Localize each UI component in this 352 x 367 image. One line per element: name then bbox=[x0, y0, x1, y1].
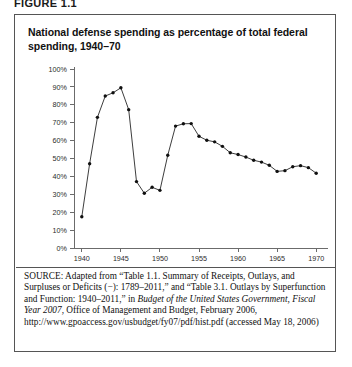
data-point bbox=[205, 139, 208, 142]
x-tick-label: 1960 bbox=[230, 254, 246, 263]
y-tick-label: 100% bbox=[49, 65, 68, 74]
series-line bbox=[82, 88, 316, 217]
data-point bbox=[197, 135, 200, 138]
data-point bbox=[291, 165, 294, 168]
x-axis: 1940194519501955196019651970 bbox=[74, 248, 328, 263]
data-point bbox=[88, 162, 91, 165]
y-tick-label: 10% bbox=[53, 226, 68, 235]
data-point bbox=[229, 151, 232, 154]
data-point bbox=[236, 153, 239, 156]
source-note: SOURCE: Adapted from “Table 1.1. Summary… bbox=[24, 271, 326, 328]
y-tick-label: 60% bbox=[53, 136, 68, 145]
source-text-part2: , Office of Management and Budget, Febru… bbox=[24, 305, 319, 326]
data-point bbox=[182, 122, 185, 125]
data-point bbox=[275, 170, 278, 173]
x-tick-label: 1940 bbox=[74, 254, 90, 263]
line-chart: 0%10%20%30%40%50%60%70%80%90%100% 194019… bbox=[15, 61, 335, 268]
y-tick-label: 50% bbox=[53, 154, 68, 163]
data-point bbox=[268, 164, 271, 167]
x-tick-label: 1955 bbox=[191, 254, 207, 263]
data-point bbox=[143, 192, 146, 195]
x-tick-label: 1950 bbox=[152, 254, 168, 263]
data-series bbox=[80, 86, 318, 218]
source-divider bbox=[16, 267, 336, 268]
data-point bbox=[127, 108, 130, 111]
y-tick-label: 40% bbox=[53, 172, 68, 181]
data-point bbox=[135, 180, 138, 183]
figure-title: National defense spending as percentage … bbox=[28, 26, 318, 53]
data-point bbox=[299, 164, 302, 167]
data-point bbox=[150, 186, 153, 189]
y-tick-label: 90% bbox=[53, 83, 68, 92]
figure-box: National defense spending as percentage … bbox=[14, 14, 336, 352]
chart-svg: 0%10%20%30%40%50%60%70%80%90%100% 194019… bbox=[15, 61, 335, 268]
y-tick-label: 0% bbox=[57, 244, 68, 253]
data-point bbox=[283, 169, 286, 172]
data-point bbox=[96, 116, 99, 119]
data-point bbox=[80, 215, 83, 218]
x-tick-label: 1965 bbox=[269, 254, 285, 263]
figure-label: FIGURE 1.1 bbox=[14, 0, 77, 8]
data-point bbox=[119, 86, 122, 89]
data-point bbox=[111, 91, 114, 94]
data-point bbox=[104, 94, 107, 97]
x-tick-label: 1970 bbox=[308, 254, 324, 263]
x-tick-label: 1945 bbox=[113, 254, 129, 263]
data-point bbox=[213, 140, 216, 143]
data-point bbox=[260, 160, 263, 163]
data-point bbox=[314, 171, 317, 174]
source-label: SOURCE: bbox=[24, 271, 63, 281]
data-point bbox=[252, 159, 255, 162]
data-point bbox=[158, 189, 161, 192]
data-point bbox=[189, 122, 192, 125]
y-axis: 0%10%20%30%40%50%60%70%80%90%100% bbox=[49, 65, 74, 253]
y-tick-label: 80% bbox=[53, 100, 68, 109]
y-tick-label: 20% bbox=[53, 208, 68, 217]
data-point bbox=[174, 124, 177, 127]
data-point bbox=[166, 154, 169, 157]
y-tick-label: 30% bbox=[53, 190, 68, 199]
data-point bbox=[244, 155, 247, 158]
data-point bbox=[221, 145, 224, 148]
y-tick-label: 70% bbox=[53, 118, 68, 127]
data-point bbox=[307, 166, 310, 169]
